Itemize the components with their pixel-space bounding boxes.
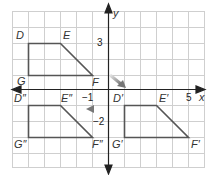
coordinate-plane: D E F G D′ E′ F′ G′ D″ E″ F″ G″ y x 3 −2…	[0, 0, 211, 175]
label-D-prime: D′	[113, 92, 124, 104]
reflection-arrow-icon	[86, 105, 107, 113]
label-G-prime: G′	[112, 138, 124, 150]
translation-arrow-icon	[110, 75, 126, 88]
label-G: G	[17, 75, 26, 87]
label-D-double-prime: D″	[14, 92, 27, 104]
label-E-prime: E′	[159, 92, 169, 104]
y-tick-3: 3	[97, 37, 103, 48]
x-tick-5: 5	[186, 92, 192, 103]
axes	[12, 4, 205, 174]
label-D: D	[16, 29, 24, 41]
y-tick-neg2: −2	[93, 116, 105, 127]
x-axis-label: x	[198, 91, 205, 103]
label-E: E	[63, 29, 71, 41]
x-tick-neg1: −1	[82, 92, 94, 103]
y-axis-label: y	[112, 7, 120, 19]
label-F-double-prime: F″	[92, 138, 104, 150]
label-E-double-prime: E″	[61, 92, 73, 104]
y-axis-arrow-down-icon	[105, 165, 112, 174]
label-F: F	[92, 76, 100, 88]
y-axis-arrow-up-icon	[105, 4, 112, 13]
label-G-double-prime: G″	[14, 138, 28, 150]
label-F-prime: F′	[191, 138, 201, 150]
